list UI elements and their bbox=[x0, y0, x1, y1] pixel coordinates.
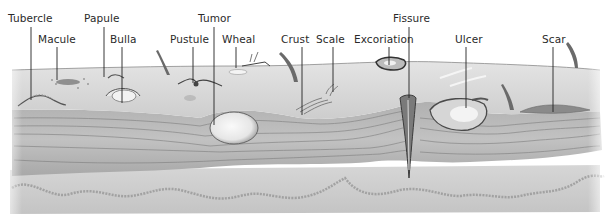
label-scar: Scar bbox=[542, 33, 566, 45]
subcutaneous-layer bbox=[10, 165, 600, 214]
label-wheal: Wheal bbox=[222, 33, 255, 45]
label-macule: Macule bbox=[38, 33, 76, 45]
label-excoriation: Excoriation bbox=[354, 33, 414, 45]
label-scale: Scale bbox=[316, 33, 345, 45]
label-pustule: Pustule bbox=[170, 33, 209, 45]
label-tumor: Tumor bbox=[198, 12, 231, 24]
label-bulla: Bulla bbox=[110, 33, 137, 45]
label-fissure: Fissure bbox=[393, 12, 430, 24]
lesion-excoriation bbox=[376, 57, 406, 70]
label-ulcer: Ulcer bbox=[455, 33, 483, 45]
label-papule: Papule bbox=[84, 12, 120, 24]
lesion-tumor bbox=[210, 112, 258, 144]
label-tubercle: Tubercle bbox=[8, 12, 53, 24]
epidermis-layer bbox=[12, 62, 600, 119]
label-crust: Crust bbox=[281, 33, 309, 45]
skin-lesions-diagram: TubercleMaculePapuleBullaPustuleTumorWhe… bbox=[0, 0, 610, 220]
